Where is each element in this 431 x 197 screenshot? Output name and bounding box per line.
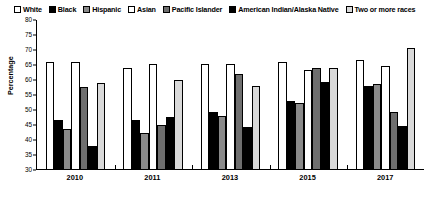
y-axis-tick-label: 50 (25, 107, 32, 113)
y-axis-tick-label: 60 (25, 77, 32, 83)
bar (321, 82, 330, 169)
bar (287, 101, 296, 169)
bar (80, 87, 89, 169)
bar (356, 60, 365, 169)
bar (166, 117, 175, 169)
legend-swatch-asian-icon (128, 6, 135, 13)
bar (278, 62, 287, 169)
legend-item-white: White (14, 6, 42, 13)
bar (252, 86, 261, 169)
bar (329, 68, 338, 169)
x-axis-tick-label: 2013 (191, 174, 269, 188)
legend-item-pacific-islander: Pacific Islander (163, 6, 222, 13)
legend-swatch-hispanic-icon (83, 6, 90, 13)
legend-swatch-pacific-islander-icon (163, 6, 170, 13)
legend-label-asian: Asian (137, 6, 156, 13)
legend-swatch-american-indian-alaska-native-icon (229, 6, 236, 13)
y-axis-title: Percentage (7, 48, 14, 104)
bar (218, 116, 227, 169)
x-axis-group-separator (347, 165, 348, 169)
y-axis: 3035404550556065707580 (0, 20, 36, 170)
bar (209, 112, 218, 169)
legend-item-asian: Asian (128, 6, 156, 13)
x-axis-tick-label: 2015 (269, 174, 347, 188)
bar (226, 64, 235, 169)
bar (295, 103, 304, 169)
bar-group-2015 (269, 20, 346, 169)
bar (88, 146, 97, 169)
bar (63, 129, 72, 169)
legend-label-american-indian-alaska-native: American Indian/Alaska Native (238, 6, 338, 13)
x-axis: 20102011201320152017 (36, 174, 424, 188)
y-axis-tick-label: 30 (25, 167, 32, 173)
bar (140, 133, 149, 169)
bar-group-2017 (347, 20, 424, 169)
legend-swatch-black-icon (49, 6, 56, 13)
bar (97, 83, 106, 169)
bar (71, 62, 80, 169)
x-axis-group-separator (192, 165, 193, 169)
y-axis-tick-label: 70 (25, 47, 32, 53)
legend-swatch-two-or-more-races-icon (346, 6, 353, 13)
bar-group-2011 (114, 20, 191, 169)
legend-label-hispanic: Hispanic (92, 6, 121, 13)
bar (132, 120, 141, 169)
y-axis-tick-label: 65 (25, 62, 32, 68)
y-axis-tick-label: 55 (25, 92, 32, 98)
bar (46, 62, 55, 169)
plot-area (36, 20, 424, 170)
bar (174, 80, 183, 169)
legend-item-two-or-more-races: Two or more races (346, 6, 416, 13)
legend-label-white: White (23, 6, 42, 13)
legend-label-black: Black (58, 6, 76, 13)
bar (149, 64, 158, 169)
bar (373, 84, 382, 170)
x-axis-tick-label: 2017 (346, 174, 424, 188)
bar (123, 68, 132, 169)
legend-label-pacific-islander: Pacific Islander (172, 6, 222, 13)
bar (243, 127, 252, 169)
y-axis-tick-label: 35 (25, 152, 32, 158)
x-axis-group-separator (115, 165, 116, 169)
bar (304, 70, 313, 169)
y-axis-tick-label: 80 (25, 17, 32, 23)
bar (398, 126, 407, 170)
legend-item-hispanic: Hispanic (83, 6, 121, 13)
y-axis-tick-label: 40 (25, 137, 32, 143)
bars-layer (37, 20, 424, 169)
bar (157, 125, 166, 169)
y-axis-tick-label: 45 (25, 122, 32, 128)
y-axis-tick-label: 75 (25, 32, 32, 38)
bar (364, 86, 373, 169)
bar-group-2010 (37, 20, 114, 169)
x-axis-tick-label: 2010 (36, 174, 114, 188)
bar (407, 48, 416, 169)
chart-legend: White Black Hispanic Asian Pacific Islan… (14, 3, 426, 16)
bar (54, 120, 63, 169)
legend-item-black: Black (49, 6, 76, 13)
legend-label-two-or-more-races: Two or more races (355, 6, 416, 13)
bar-group-2013 (192, 20, 269, 169)
x-axis-group-separator (270, 165, 271, 169)
x-axis-tick-label: 2011 (114, 174, 192, 188)
bar (390, 112, 399, 169)
legend-item-american-indian-alaska-native: American Indian/Alaska Native (229, 6, 338, 13)
legend-swatch-white-icon (14, 6, 21, 13)
bar (201, 64, 210, 169)
bar (235, 74, 244, 169)
bar (312, 68, 321, 169)
bar (381, 66, 390, 169)
